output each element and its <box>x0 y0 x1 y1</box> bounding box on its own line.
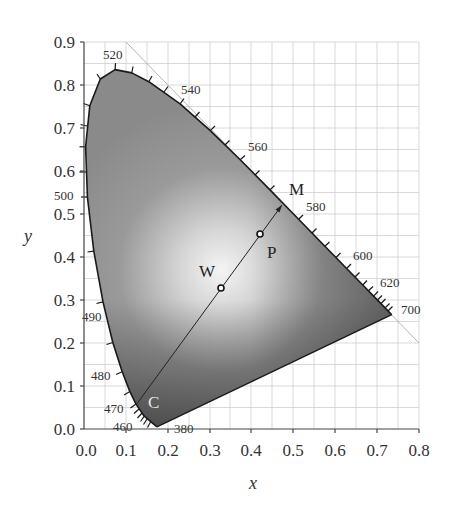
point-label-c: C <box>148 393 159 412</box>
wl-label-480: 480 <box>91 368 111 383</box>
y-tick-0.2: 0.2 <box>54 334 75 353</box>
x-axis-title: x <box>248 473 257 493</box>
chromaticity-chart: W P M C 380 460 470 480 490 500 520 540 … <box>0 0 454 509</box>
y-tick-0.1: 0.1 <box>54 377 75 396</box>
y-tick-0.0: 0.0 <box>54 420 75 439</box>
x-tick-0.4: 0.4 <box>240 441 262 460</box>
point-label-p: P <box>267 243 276 262</box>
y-tick-0.9: 0.9 <box>54 33 75 52</box>
y-tick-0.5: 0.5 <box>54 205 75 224</box>
wl-label-520: 520 <box>103 47 123 62</box>
x-tick-0.5: 0.5 <box>282 441 303 460</box>
x-tick-0.8: 0.8 <box>408 441 429 460</box>
wl-label-470: 470 <box>104 401 124 416</box>
y-tick-0.4: 0.4 <box>54 248 76 267</box>
x-tick-labels: 0.0 0.1 0.2 0.3 0.4 0.5 0.6 0.7 0.8 <box>75 441 429 460</box>
x-tick-0.1: 0.1 <box>115 441 136 460</box>
wl-label-600: 600 <box>353 248 373 263</box>
wl-label-560: 560 <box>248 139 268 154</box>
wl-label-540: 540 <box>181 82 201 97</box>
wl-label-620: 620 <box>380 275 400 290</box>
y-axis-title: y <box>22 226 32 246</box>
color-gamut-fill <box>80 60 400 432</box>
y-tick-0.7: 0.7 <box>54 119 76 138</box>
wl-label-460: 460 <box>113 419 133 434</box>
x-tick-0.2: 0.2 <box>157 441 178 460</box>
wl-label-500: 500 <box>54 188 74 203</box>
y-tick-labels: 0.0 0.1 0.2 0.3 0.4 0.5 0.6 0.7 0.8 0.9 <box>54 33 76 439</box>
x-tick-0.7: 0.7 <box>366 441 388 460</box>
white-point-marker <box>218 285 224 291</box>
y-tick-0.3: 0.3 <box>54 291 75 310</box>
wl-label-490: 490 <box>82 309 102 324</box>
point-label-w: W <box>199 262 216 281</box>
x-tick-0.0: 0.0 <box>75 441 96 460</box>
x-tick-0.3: 0.3 <box>199 441 220 460</box>
wl-label-580: 580 <box>306 199 326 214</box>
wl-label-700: 700 <box>401 302 421 317</box>
x-tick-0.6: 0.6 <box>324 441 345 460</box>
point-label-m: M <box>289 180 304 199</box>
y-tick-0.8: 0.8 <box>54 76 75 95</box>
sample-point-marker <box>257 231 263 237</box>
y-tick-0.6: 0.6 <box>54 162 75 181</box>
